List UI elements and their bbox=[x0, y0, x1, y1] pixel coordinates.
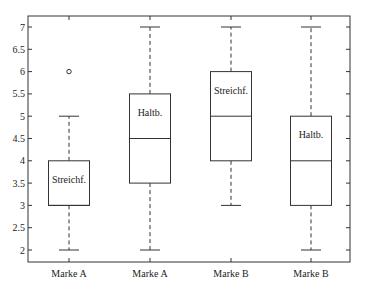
boxplot-chart: 22.533.544.555.566.57 Marke AMarke AMark… bbox=[0, 0, 366, 286]
x-tick-label: Marke A bbox=[132, 268, 168, 279]
y-tick-label: 3.5 bbox=[13, 178, 26, 189]
box-annotation: Streichf. bbox=[52, 174, 86, 185]
box-annotation: Streichf. bbox=[214, 85, 248, 96]
box-annotation: Haltb. bbox=[138, 107, 163, 118]
x-tick-label: Marke A bbox=[51, 268, 87, 279]
y-tick-label: 6 bbox=[20, 66, 25, 77]
y-tick-label: 2 bbox=[20, 245, 25, 256]
y-tick-label: 5.5 bbox=[13, 88, 26, 99]
x-tick-label: Marke B bbox=[213, 268, 249, 279]
y-tick-label: 7 bbox=[20, 22, 25, 33]
y-tick-label: 5 bbox=[20, 111, 25, 122]
box-annotation: Haltb. bbox=[299, 129, 324, 140]
y-tick-label: 3 bbox=[20, 200, 25, 211]
y-tick-label: 6.5 bbox=[13, 44, 26, 55]
x-tick-label: Marke B bbox=[293, 268, 329, 279]
y-tick-label: 2.5 bbox=[13, 222, 26, 233]
y-tick-label: 4 bbox=[20, 155, 25, 166]
y-tick-label: 4.5 bbox=[13, 133, 26, 144]
